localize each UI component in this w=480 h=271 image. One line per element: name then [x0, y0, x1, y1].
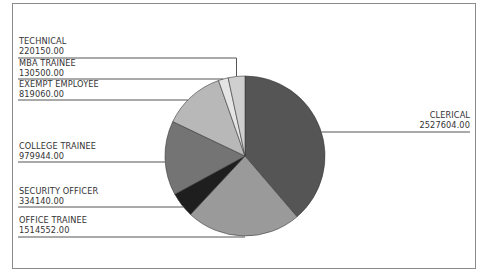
- slice-value: 979944.00: [19, 151, 64, 161]
- slice-label: EXEMPT EMPLOYEE: [19, 79, 99, 89]
- slice-label: CLERICAL: [430, 110, 471, 120]
- slice-label: COLLEGE TRAINEE: [19, 141, 96, 151]
- slice-value: 334140.00: [19, 196, 64, 206]
- slice-label: SECURITY OFFICER: [19, 186, 98, 196]
- slice-value: 819060.00: [19, 89, 64, 99]
- slice-value: 130500.00: [19, 68, 64, 78]
- slice-value: 1514552.00: [19, 225, 70, 235]
- slice-label: MBA TRAINEE: [19, 58, 76, 68]
- pie-slices: [165, 76, 325, 236]
- slice-value: 2527604.00: [420, 120, 471, 130]
- slice-label: TECHNICAL: [18, 36, 67, 46]
- slice-value: 220150.00: [19, 46, 64, 56]
- slice-label: OFFICE TRAINEE: [19, 215, 87, 225]
- pie-chart: CLERICAL2527604.00OFFICE TRAINEE1514552.…: [0, 0, 480, 271]
